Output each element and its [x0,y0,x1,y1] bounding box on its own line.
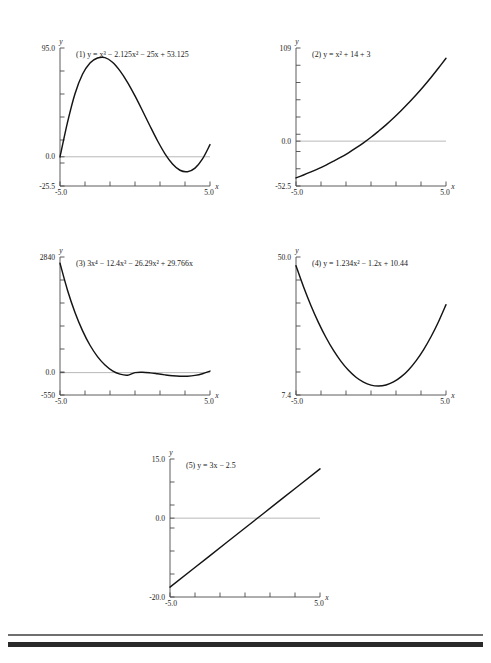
equation-label: (3) 3x⁴ − 12.4x³ − 26.29x² + 29.766x [76,259,193,268]
x-tick-label-min: -5.0 [291,397,303,406]
x-tick-label-max: 5.0 [204,397,214,406]
function-curve [60,57,210,172]
plot-1: 95.00.0-25.5-5.05.0yx(1) y = x³ − 2.125x… [26,36,228,208]
x-axis-label: x [214,182,219,191]
footer-rule-thick [8,642,483,647]
equation-label: (2) y = x² + 14 + 3 [312,50,371,59]
y-tick-label: 0.0 [156,514,166,523]
function-curve [296,266,446,386]
x-tick-label-min: -5.0 [291,188,303,197]
y-axis-label: y [58,37,63,46]
y-axis-label: y [294,246,299,255]
function-curve [296,58,446,178]
y-tick-label: -52.5 [275,182,291,191]
x-axis-label: x [450,182,455,191]
y-tick-label: 50.0 [278,253,291,262]
y-tick-label: -25.5 [39,182,55,191]
x-axis-label: x [450,391,455,400]
y-tick-label: 95.0 [42,44,55,53]
x-tick-label-max: 5.0 [204,188,214,197]
y-tick-label: -550 [41,391,55,400]
x-axis-label: x [324,593,329,602]
plot-panel-4: 50.07.4-5.05.0yx(4) y = 1.234x² − 1.2x +… [262,245,464,417]
y-axis-label: y [58,246,63,255]
plot-panel-1: 95.00.0-25.5-5.05.0yx(1) y = x³ − 2.125x… [26,36,228,208]
function-curve [170,469,320,587]
footer-rule-thin [8,634,483,636]
y-axis-label: y [294,37,299,46]
x-tick-label-max: 5.0 [314,599,324,608]
x-tick-label-min: -5.0 [55,397,67,406]
y-tick-label: 0.0 [46,368,56,377]
y-tick-label: 109 [280,44,292,53]
function-curve [60,263,210,376]
plot-panel-5: 15.00.0-20.0-5.05.0yx(5) y = 3x − 2.5 [136,447,338,619]
x-tick-label-min: -5.0 [55,188,67,197]
plot-3: 28400.0-550-5.05.0yx(3) 3x⁴ − 12.4x³ − 2… [26,245,228,417]
x-tick-label-max: 5.0 [440,188,450,197]
y-tick-label: 2840 [40,253,55,262]
y-tick-label: 0.0 [282,137,292,146]
x-axis-label: x [214,391,219,400]
plot-2: 1090.0-52.5-5.05.0yx(2) y = x² + 14 + 3 [262,36,464,208]
plot-panel-2: 1090.0-52.5-5.05.0yx(2) y = x² + 14 + 3 [262,36,464,208]
y-tick-label: 15.0 [152,455,165,464]
equation-label: (5) y = 3x − 2.5 [186,461,236,470]
x-tick-label-max: 5.0 [440,397,450,406]
plot-4: 50.07.4-5.05.0yx(4) y = 1.234x² − 1.2x +… [262,245,464,417]
equation-label: (1) y = x³ − 2.125x² − 25x + 53.125 [76,50,189,59]
plot-5: 15.00.0-20.0-5.05.0yx(5) y = 3x − 2.5 [136,447,338,619]
equation-label: (4) y = 1.234x² − 1.2x + 10.44 [312,259,408,268]
y-tick-label: 7.4 [282,391,292,400]
x-tick-label-min: -5.0 [165,599,177,608]
plot-panel-3: 28400.0-550-5.05.0yx(3) 3x⁴ − 12.4x³ − 2… [26,245,228,417]
figure-page: 95.00.0-25.5-5.05.0yx(1) y = x³ − 2.125x… [0,0,491,663]
y-axis-label: y [168,448,173,457]
y-tick-label: -20.0 [149,593,165,602]
y-tick-label: 0.0 [46,152,56,161]
